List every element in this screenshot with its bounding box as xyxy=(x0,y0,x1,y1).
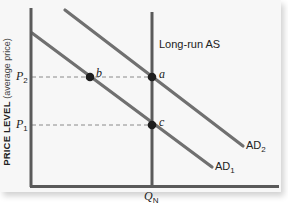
p1-tick-label: P1 xyxy=(16,118,28,135)
p2-tick-label: P2 xyxy=(16,70,28,87)
point-c-label: c xyxy=(159,116,164,128)
ad-lras-diagram xyxy=(0,0,288,206)
point-c xyxy=(148,121,157,130)
point-b xyxy=(86,73,95,82)
ad2-label: AD2 xyxy=(246,139,266,156)
long-run-as-label: Long-run AS xyxy=(159,38,220,50)
y-axis-title: PRICE LEVEL (average price) xyxy=(1,31,13,173)
point-a xyxy=(148,73,157,82)
point-a-label: a xyxy=(159,68,165,80)
qn-tick-label: QN xyxy=(144,190,158,206)
y-axis-sublabel: (average price) xyxy=(2,38,12,99)
point-b-label: b xyxy=(96,67,102,79)
ad1-label: AD1 xyxy=(215,160,235,177)
y-axis-label: PRICE LEVEL xyxy=(1,101,12,166)
